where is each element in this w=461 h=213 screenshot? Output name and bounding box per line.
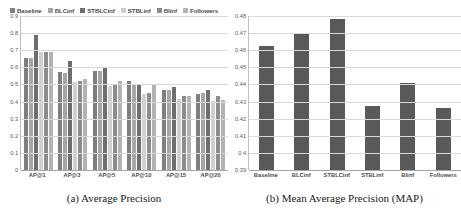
bar bbox=[58, 72, 62, 170]
bar bbox=[201, 93, 205, 170]
bar-group bbox=[162, 16, 191, 170]
y-tick-label: 0.3 bbox=[10, 116, 18, 122]
x-tick-label: AP@20 bbox=[193, 172, 228, 178]
bar bbox=[113, 84, 117, 170]
legend-swatch-icon bbox=[121, 8, 126, 13]
bar bbox=[108, 86, 112, 170]
gridline bbox=[21, 153, 228, 154]
panel-a-caption: (a) Average Precision bbox=[0, 183, 228, 213]
legend-swatch-icon bbox=[80, 8, 85, 13]
bar-group bbox=[93, 16, 122, 170]
legend-item: BLCinf bbox=[48, 7, 75, 14]
gridline bbox=[249, 84, 461, 85]
bar-group bbox=[426, 16, 461, 170]
panel-average-precision: BaselineBLCinfSTBLCinfSTBLinfBlinfFollow… bbox=[0, 0, 228, 213]
chart-legend: BaselineBLCinfSTBLCinfSTBLinfBlinfFollow… bbox=[0, 0, 228, 16]
plot-area-b: 0.390.40.410.420.430.440.450.460.470.48 bbox=[228, 16, 461, 170]
bar bbox=[63, 73, 67, 170]
legend-swatch-icon bbox=[10, 8, 15, 13]
plot-canvas-b bbox=[248, 16, 461, 170]
y-tick-label: 0.4 bbox=[10, 99, 18, 105]
plot-area-a: 00.10.20.30.40.50.60.70.80.9 bbox=[0, 16, 228, 170]
bar bbox=[137, 84, 141, 170]
x-tick-label: AP@3 bbox=[55, 172, 90, 178]
chart-legend-b-placeholder bbox=[228, 0, 461, 16]
legend-item: Followers bbox=[183, 7, 218, 14]
legend-swatch-icon bbox=[48, 8, 53, 13]
x-tick-label: AP@10 bbox=[124, 172, 159, 178]
bar bbox=[187, 96, 191, 170]
bar bbox=[259, 46, 274, 170]
gridline bbox=[249, 119, 461, 120]
x-tick-label: STBLinf bbox=[355, 172, 391, 178]
gridline bbox=[249, 136, 461, 137]
legend-item: STBLinf bbox=[121, 7, 151, 14]
plot-canvas-a bbox=[20, 16, 228, 170]
x-tick-labels-b: BaselineBLCinfSTBLCinfSTBLinfBlinfFollow… bbox=[248, 172, 461, 178]
bar-group bbox=[58, 16, 87, 170]
legend-item-label: BLCinf bbox=[55, 7, 75, 14]
gridline bbox=[21, 33, 228, 34]
bar bbox=[147, 93, 151, 170]
y-tick-label: 0.2 bbox=[10, 133, 18, 139]
bar-groups-b bbox=[249, 16, 461, 170]
bar bbox=[196, 94, 200, 170]
gridline bbox=[21, 102, 228, 103]
figure-container: BaselineBLCinfSTBLCinfSTBLinfBlinfFollow… bbox=[0, 0, 461, 213]
gridline bbox=[249, 67, 461, 68]
y-tick-label: 0.5 bbox=[10, 81, 18, 87]
gridline bbox=[249, 16, 461, 17]
x-tick-label: AP@1 bbox=[20, 172, 55, 178]
bar bbox=[182, 96, 186, 170]
x-tick-labels-a: AP@1AP@3AP@5AP@10AP@15AP@20 bbox=[20, 172, 228, 178]
x-axis-b: BaselineBLCinfSTBLCinfSTBLinfBlinfFollow… bbox=[228, 170, 461, 183]
gridline bbox=[21, 136, 228, 137]
bar-group bbox=[320, 16, 355, 170]
bar bbox=[132, 84, 136, 170]
y-tick-label: 0.4 bbox=[238, 150, 246, 156]
legend-swatch-icon bbox=[157, 8, 162, 13]
panel-mean-average-precision: 0.390.40.410.420.430.440.450.460.470.48 … bbox=[228, 0, 461, 213]
bar-group bbox=[284, 16, 319, 170]
bar-group bbox=[355, 16, 390, 170]
x-tick-label: AP@5 bbox=[89, 172, 124, 178]
y-tick-label: 0.6 bbox=[10, 64, 18, 70]
x-tick-label: STBLCinf bbox=[319, 172, 355, 178]
bar-group bbox=[24, 16, 53, 170]
legend-item-label: Baseline bbox=[17, 7, 42, 14]
x-axis-a: AP@1AP@3AP@5AP@10AP@15AP@20 bbox=[0, 170, 228, 183]
y-tick-label: 0.47 bbox=[235, 30, 246, 36]
y-tick-label: 0.43 bbox=[235, 99, 246, 105]
y-tick-label: 0.46 bbox=[235, 47, 246, 53]
x-tick-label: Baseline bbox=[248, 172, 284, 178]
bar bbox=[127, 81, 131, 170]
bar-group bbox=[249, 16, 284, 170]
y-tick-label: 0.44 bbox=[235, 81, 246, 87]
bar-group bbox=[390, 16, 425, 170]
y-tick-label: 0.8 bbox=[10, 30, 18, 36]
bar-group bbox=[127, 16, 156, 170]
bar bbox=[400, 83, 415, 170]
y-tick-label: 0.7 bbox=[10, 47, 18, 53]
gridline bbox=[21, 16, 228, 17]
bar bbox=[73, 82, 77, 170]
gridline bbox=[249, 102, 461, 103]
legend-item-label: STBLinf bbox=[128, 7, 151, 14]
bar bbox=[365, 106, 380, 170]
bar bbox=[142, 94, 146, 170]
bar bbox=[216, 96, 220, 170]
y-tick-label: 0.1 bbox=[10, 150, 18, 156]
bar bbox=[330, 19, 345, 170]
gridline bbox=[21, 84, 228, 85]
bar bbox=[436, 108, 451, 170]
gridline bbox=[21, 119, 228, 120]
bar bbox=[177, 99, 181, 170]
legend-item: STBLCinf bbox=[80, 7, 114, 14]
y-tick-label: 0.42 bbox=[235, 116, 246, 122]
bar bbox=[98, 71, 102, 170]
panel-b-caption: (b) Mean Average Precision (MAP) bbox=[228, 183, 461, 213]
y-axis-a: 00.10.20.30.40.50.60.70.80.9 bbox=[0, 16, 20, 170]
bar bbox=[78, 81, 82, 170]
bar bbox=[83, 79, 87, 170]
gridline bbox=[249, 33, 461, 34]
